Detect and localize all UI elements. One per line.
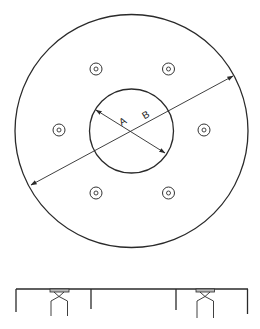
bolt-hole bbox=[163, 63, 175, 75]
bolt-hole bbox=[90, 187, 102, 199]
drawing-canvas: A B bbox=[0, 0, 260, 329]
support-left bbox=[50, 289, 69, 316]
dimension-label-a: A bbox=[117, 115, 129, 128]
bearing-plate bbox=[196, 289, 215, 292]
bolt-hole bbox=[163, 187, 175, 199]
support-post bbox=[197, 297, 214, 319]
bolt-hole bbox=[90, 63, 102, 75]
dimension-line-a bbox=[96, 110, 165, 153]
dimension-label-b: B bbox=[140, 108, 152, 121]
side-view bbox=[16, 289, 248, 318]
bearing-plate bbox=[50, 289, 69, 292]
technical-drawing: A B bbox=[0, 0, 260, 329]
bracket-top bbox=[200, 292, 210, 297]
plan-view: A B bbox=[15, 15, 248, 248]
support-right bbox=[196, 289, 215, 318]
support-post bbox=[51, 297, 68, 317]
bolt-hole bbox=[53, 124, 65, 136]
bracket-top bbox=[54, 292, 64, 297]
bolt-hole bbox=[198, 124, 210, 136]
